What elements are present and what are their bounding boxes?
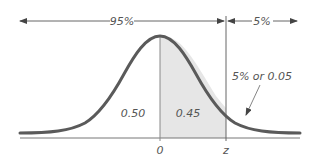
label-5-percent: 5%: [253, 15, 270, 28]
shaded-area-0.45: [160, 36, 226, 138]
label-shaded-area: 0.45: [176, 107, 201, 120]
label-95-percent: 95%: [110, 15, 134, 28]
axis-label-mean: 0: [157, 144, 164, 157]
label-left-half: 0.50: [121, 107, 146, 120]
label-tail-callout: 5% or 0.05: [232, 70, 292, 83]
tail-callout-pointer: [246, 85, 260, 115]
normal-curve-diagram: 95% 5% 0.50 0.45 5% or 0.05 0 z: [0, 0, 318, 163]
axis-label-z: z: [222, 144, 229, 157]
